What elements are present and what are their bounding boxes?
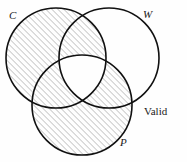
venn-diagram-canvas: C W P Valid [0,0,187,162]
circle-label-w: W [143,9,152,20]
venn-diagram-svg [0,0,187,162]
conclusion-label: Valid [144,106,167,117]
circle-label-c: C [9,10,16,21]
circle-label-p: P [120,137,127,148]
